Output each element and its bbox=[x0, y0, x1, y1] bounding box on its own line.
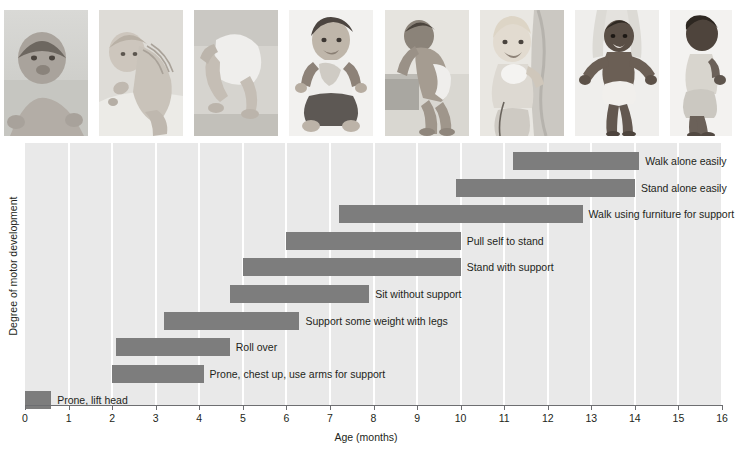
bar-stand-with-support bbox=[243, 258, 461, 276]
photo-roll-over bbox=[99, 10, 183, 136]
photo-roll-over-image bbox=[99, 10, 183, 136]
x-tick-label-3: 3 bbox=[141, 412, 171, 424]
photo-walk-alone-image bbox=[670, 10, 732, 136]
x-tick-label-1: 1 bbox=[54, 412, 84, 424]
bar-label-prone-chest-up-use-arms-for-support: Prone, chest up, use arms for support bbox=[210, 365, 386, 383]
x-tick-4 bbox=[199, 405, 200, 410]
x-tick-label-16: 16 bbox=[707, 412, 737, 424]
baby-photo-strip bbox=[0, 0, 732, 140]
photo-support-weight-image bbox=[194, 10, 278, 136]
x-tick-9 bbox=[417, 405, 418, 410]
x-tick-10 bbox=[461, 405, 462, 410]
photo-stand-with-support-image bbox=[480, 10, 564, 136]
x-tick-12 bbox=[548, 405, 549, 410]
x-tick-label-4: 4 bbox=[184, 412, 214, 424]
photo-support-weight bbox=[194, 10, 278, 136]
x-tick-16 bbox=[722, 405, 723, 410]
x-tick-14 bbox=[635, 405, 636, 410]
x-tick-2 bbox=[112, 405, 113, 410]
x-tick-0 bbox=[25, 405, 26, 410]
photo-walk-with-help-image bbox=[575, 10, 659, 136]
photo-stand-with-support bbox=[480, 10, 564, 136]
x-tick-label-7: 7 bbox=[315, 412, 345, 424]
bar-prone-chest-up-use-arms-for-support bbox=[112, 365, 203, 383]
bar-pull-self-to-stand bbox=[286, 232, 460, 250]
x-tick-label-10: 10 bbox=[446, 412, 476, 424]
x-tick-6 bbox=[286, 405, 287, 410]
motor-development-chart: Degree of motor development Walk alone e… bbox=[0, 140, 732, 455]
bar-label-roll-over: Roll over bbox=[236, 338, 277, 356]
x-tick-label-0: 0 bbox=[10, 412, 40, 424]
photo-pull-self-to-stand-image bbox=[385, 10, 469, 136]
bar-stand-alone-easily bbox=[456, 179, 635, 197]
x-tick-label-2: 2 bbox=[97, 412, 127, 424]
gridline-month-1 bbox=[68, 143, 70, 405]
photo-prone-lift-head bbox=[4, 10, 88, 136]
photo-sit-without-support-image bbox=[289, 10, 373, 136]
x-tick-3 bbox=[156, 405, 157, 410]
x-tick-label-9: 9 bbox=[402, 412, 432, 424]
x-tick-label-11: 11 bbox=[489, 412, 519, 424]
x-tick-11 bbox=[504, 405, 505, 410]
bar-sit-without-support bbox=[230, 285, 369, 303]
x-tick-label-14: 14 bbox=[620, 412, 650, 424]
y-axis-title: Degree of motor development bbox=[7, 141, 19, 391]
x-tick-label-13: 13 bbox=[576, 412, 606, 424]
photo-pull-self-to-stand bbox=[385, 10, 469, 136]
x-tick-label-5: 5 bbox=[228, 412, 258, 424]
x-tick-label-15: 15 bbox=[663, 412, 693, 424]
bar-label-stand-with-support: Stand with support bbox=[467, 258, 554, 276]
x-tick-label-12: 12 bbox=[533, 412, 563, 424]
photo-sit-without-support bbox=[289, 10, 373, 136]
x-tick-1 bbox=[69, 405, 70, 410]
x-tick-13 bbox=[591, 405, 592, 410]
bar-label-pull-self-to-stand: Pull self to stand bbox=[467, 232, 544, 250]
photo-walk-with-help bbox=[575, 10, 659, 136]
bar-support-some-weight-with-legs bbox=[164, 312, 299, 330]
photo-prone-lift-head-image bbox=[4, 10, 88, 136]
bar-walk-alone-easily bbox=[513, 152, 639, 170]
x-tick-8 bbox=[374, 405, 375, 410]
bar-label-support-some-weight-with-legs: Support some weight with legs bbox=[305, 312, 447, 330]
plot-area: Walk alone easilyStand alone easilyWalk … bbox=[25, 143, 722, 405]
bar-label-walk-alone-easily: Walk alone easily bbox=[645, 152, 726, 170]
bar-label-stand-alone-easily: Stand alone easily bbox=[641, 179, 727, 197]
x-tick-5 bbox=[243, 405, 244, 410]
bar-prone-lift-head bbox=[25, 391, 51, 409]
x-tick-label-8: 8 bbox=[359, 412, 389, 424]
bar-label-sit-without-support: Sit without support bbox=[375, 285, 461, 303]
x-axis-title: Age (months) bbox=[0, 431, 732, 443]
x-tick-label-6: 6 bbox=[271, 412, 301, 424]
x-tick-15 bbox=[678, 405, 679, 410]
bar-walk-using-furniture-for-support bbox=[339, 205, 583, 223]
bar-roll-over bbox=[116, 338, 229, 356]
photo-walk-alone bbox=[670, 10, 732, 136]
x-tick-7 bbox=[330, 405, 331, 410]
bar-label-walk-using-furniture-for-support: Walk using furniture for support bbox=[589, 205, 735, 223]
